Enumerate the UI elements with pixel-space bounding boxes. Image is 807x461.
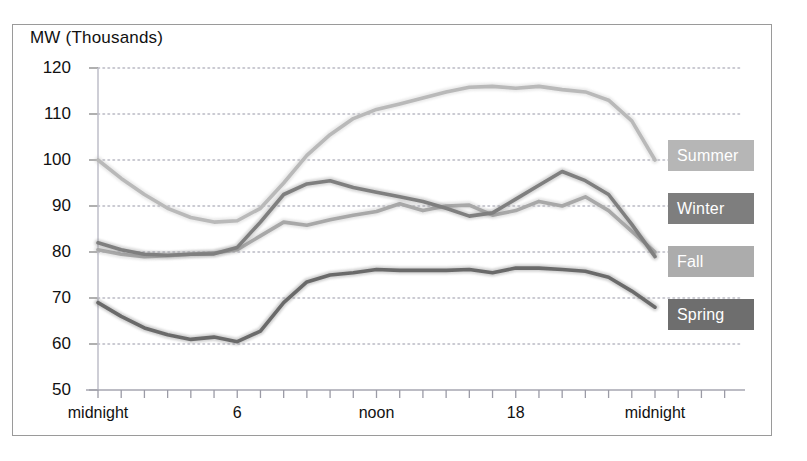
x-axis-tick-label: midnight [625,404,685,422]
x-axis-tick-labels: midnight6noon18midnight [0,0,807,461]
legend-item-label: Spring [677,306,724,324]
legend-item-spring[interactable]: Spring [668,299,754,330]
legend-item-label: Summer [677,147,739,165]
chart-figure: MW (Thousands) 5060708090100110120 midni… [0,0,807,461]
x-axis-tick-label: midnight [68,404,128,422]
legend-item-label: Winter [677,200,724,218]
x-axis-tick-label: 6 [233,404,242,422]
legend-item-label: Fall [677,253,704,271]
legend-item-summer[interactable]: Summer [668,140,754,171]
x-axis-tick-label: 18 [507,404,525,422]
legend-item-winter[interactable]: Winter [668,193,754,224]
legend-item-fall[interactable]: Fall [668,246,754,277]
x-axis-tick-label: noon [359,404,395,422]
